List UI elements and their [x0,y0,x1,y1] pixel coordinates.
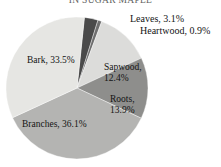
pie-chart [5,16,149,160]
slice-label-leaves: Leaves, 3.1% [130,13,184,24]
chart-title: IN SUGAR MAPLE [0,0,221,5]
pie-svg [5,16,149,160]
slice-label-sapwood-line1: Sapwood, [104,62,142,73]
slice-label-bark: Bark, 33.5% [27,55,75,66]
slice-label-branches: Branches, 36.1% [22,119,87,130]
pie-chart-figure: IN SUGAR MAPLE Leaves, 3.1% Heartwood, 0… [0,0,221,167]
slice-label-roots: Roots, 13.9% [110,94,135,115]
slice-label-sapwood: Sapwood, 12.4% [104,62,142,83]
slice-label-heartwood: Heartwood, 0.9% [140,25,210,36]
pie-slices [6,17,148,159]
slice-label-roots-line1: Roots, [110,94,135,105]
slice-label-roots-line2: 13.9% [110,105,135,116]
slice-label-sapwood-line2: 12.4% [104,73,142,84]
